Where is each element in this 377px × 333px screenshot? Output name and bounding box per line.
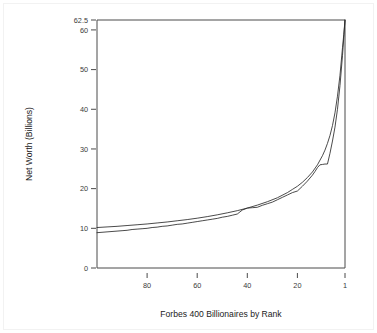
- plot-frame: [97, 20, 345, 268]
- y-tick-label: 62.5: [74, 16, 88, 25]
- x-axis-tick-labels: 806040201: [143, 281, 347, 290]
- y-tick-label: 30: [80, 145, 88, 154]
- line-chart: 010203040506062.5 806040201 Forbes 400 B…: [0, 0, 377, 333]
- y-tick-label: 40: [80, 105, 88, 114]
- chart-page: 010203040506062.5 806040201 Forbes 400 B…: [0, 0, 377, 333]
- y-axis-ticks: [91, 20, 96, 268]
- x-tick-label: 40: [243, 281, 251, 290]
- x-tick-label: 60: [193, 281, 201, 290]
- x-tick-label: 1: [343, 281, 347, 290]
- y-tick-label: 0: [84, 264, 88, 273]
- x-axis-ticks: [147, 273, 345, 278]
- y-tick-label: 60: [80, 26, 88, 35]
- y-tick-label: 20: [80, 184, 88, 193]
- x-tick-label: 20: [293, 281, 301, 290]
- x-tick-label: 80: [143, 281, 151, 290]
- y-tick-label: 50: [80, 65, 88, 74]
- figure-container: 010203040506062.5 806040201 Forbes 400 B…: [0, 0, 377, 333]
- y-tick-label: 10: [80, 224, 88, 233]
- fit-series-line: [97, 20, 345, 228]
- x-axis-title: Forbes 400 Billionaires by Rank: [160, 309, 282, 319]
- y-axis-title: Net Worth (Billions): [24, 107, 34, 181]
- data-series-line: [97, 20, 345, 233]
- y-axis-tick-labels: 010203040506062.5: [74, 16, 88, 273]
